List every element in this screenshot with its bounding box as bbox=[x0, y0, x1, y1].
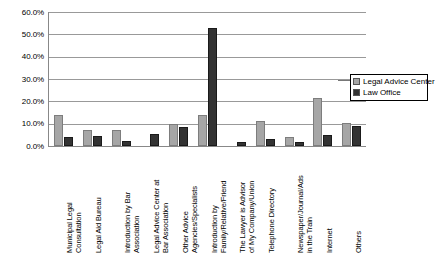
legend-label-legal-advice-center: Legal Advice Center bbox=[363, 77, 435, 86]
chart-legend: Legal Advice Center Law Office bbox=[350, 74, 428, 101]
x-tick-label: Introduction byFamily/Relative/Friend bbox=[211, 149, 228, 253]
bar-legal-advice-center bbox=[83, 130, 92, 146]
y-tick-label: 60.0% bbox=[22, 8, 44, 17]
bar-group bbox=[78, 12, 107, 146]
x-axis: Municipal LegalConsultationLegal Aid Bur… bbox=[48, 149, 365, 257]
x-tick-label: Introduction by BarAssociation bbox=[124, 149, 141, 253]
plot-area bbox=[48, 12, 366, 147]
legend-item-law-office: Law Office bbox=[353, 87, 424, 98]
y-tick-label: 50.0% bbox=[22, 30, 44, 39]
legend-swatch-legal-advice-center bbox=[353, 78, 360, 85]
bar-group bbox=[280, 12, 309, 146]
bar-legal-advice-center bbox=[54, 115, 63, 146]
y-tick-label: 0.0% bbox=[26, 142, 44, 151]
bar-law-office bbox=[179, 127, 188, 146]
bar-law-office bbox=[323, 135, 332, 146]
bar-group bbox=[251, 12, 280, 146]
y-tick-label: 20.0% bbox=[22, 97, 44, 106]
x-tick-label: Newspaper/Journal/Adsin the Train bbox=[297, 149, 314, 253]
bar-law-office bbox=[266, 139, 275, 146]
bar-legal-advice-center bbox=[313, 98, 322, 146]
x-tick-label: Telephone Directory bbox=[268, 149, 277, 253]
bar-law-office bbox=[295, 142, 304, 146]
legend-swatch-law-office bbox=[353, 89, 360, 96]
x-tick-label: Internet bbox=[326, 149, 335, 253]
bar-legal-advice-center bbox=[342, 123, 351, 146]
y-tick-label: 30.0% bbox=[22, 75, 44, 84]
legend-label-law-office: Law Office bbox=[363, 88, 401, 97]
bars-layer bbox=[49, 12, 366, 146]
bar-group bbox=[193, 12, 222, 146]
x-tick-label: Legal Aid Bureau bbox=[95, 149, 104, 253]
bar-law-office bbox=[237, 142, 246, 146]
bar-group bbox=[49, 12, 78, 146]
x-tick-label: The Lawyer is Advisorof My Company/Union bbox=[239, 149, 256, 253]
bar-legal-advice-center bbox=[285, 137, 294, 146]
bar-legal-advice-center bbox=[112, 130, 121, 146]
y-axis: 0.0%10.0%20.0%30.0%40.0%50.0%60.0% bbox=[0, 0, 46, 152]
bar-group bbox=[135, 12, 164, 146]
bar-law-office bbox=[122, 141, 131, 146]
bar-group bbox=[222, 12, 251, 146]
bar-law-office bbox=[93, 136, 102, 146]
y-tick-label: 40.0% bbox=[22, 52, 44, 61]
x-tick-label: Legal Advice Center atBar Association bbox=[153, 149, 170, 253]
bar-legal-advice-center bbox=[198, 115, 207, 146]
y-tick-label: 10.0% bbox=[22, 119, 44, 128]
bar-group bbox=[308, 12, 337, 146]
legend-item-legal-advice-center: Legal Advice Center bbox=[353, 76, 424, 87]
bar-legal-advice-center bbox=[256, 121, 265, 146]
bar-group bbox=[107, 12, 136, 146]
bar-legal-advice-center bbox=[169, 124, 178, 146]
bar-law-office bbox=[352, 126, 361, 146]
x-tick-label: Other AdviceAgencies/Specialists bbox=[182, 149, 199, 253]
x-tick-label: Others bbox=[355, 149, 364, 253]
x-tick-label: Municipal LegalConsultation bbox=[66, 149, 83, 253]
bar-law-office bbox=[208, 28, 217, 146]
bar-law-office bbox=[64, 137, 73, 146]
bar-group bbox=[164, 12, 193, 146]
bar-law-office bbox=[150, 134, 159, 146]
